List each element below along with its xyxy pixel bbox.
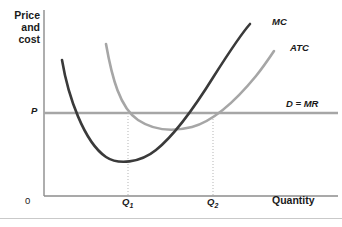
y-axis-title-line-2: and	[21, 21, 40, 33]
q1-tick-label: Q1	[122, 197, 133, 210]
atc-curve-label: ATC	[290, 43, 309, 54]
mc-curve-label: MC	[272, 17, 287, 28]
economics-cost-curve-figure: Priceandcost Quantity MC ATC D = MR P Q1…	[0, 0, 342, 227]
y-axis-title-line-3: cost	[18, 33, 40, 45]
price-level-label: P	[31, 106, 37, 117]
chart-canvas	[0, 0, 342, 227]
q2-tick-subscript: 2	[214, 202, 218, 209]
y-axis-title: Priceandcost	[2, 10, 40, 45]
origin-label: 0	[25, 196, 30, 207]
q2-tick-label: Q2	[207, 197, 218, 210]
y-axis-title-line-1: Price	[14, 9, 40, 21]
demand-mr-label: D = MR	[286, 99, 318, 110]
atc-curve	[106, 44, 274, 130]
x-axis-title: Quantity	[272, 195, 315, 207]
mc-curve	[62, 24, 250, 162]
q1-tick-subscript: 1	[129, 202, 133, 209]
bottom-divider	[0, 218, 342, 219]
